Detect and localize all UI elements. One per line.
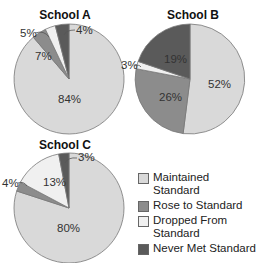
label-b-52: 52% (208, 78, 231, 90)
swatch-rose (138, 201, 149, 212)
legend: Maintained Standard Rose to Standard Dro… (138, 171, 256, 257)
pie-school-a (14, 24, 124, 134)
label-c-4: 4% (2, 177, 19, 189)
legend-label: Dropped From Standard (153, 214, 233, 240)
legend-label: Rose to Standard (153, 199, 243, 212)
label-a-4: 4% (76, 24, 93, 36)
legend-item-never: Never Met Standard (138, 242, 256, 255)
label-c-13: 13% (43, 176, 66, 188)
pie-school-c (14, 153, 124, 263)
label-c-80: 80% (57, 222, 80, 234)
legend-item-rose: Rose to Standard (138, 199, 256, 212)
label-a-84: 84% (58, 93, 81, 105)
label-b-26: 26% (159, 91, 182, 103)
legend-label: Never Met Standard (153, 242, 256, 255)
swatch-dropped (138, 216, 149, 227)
legend-label: Maintained Standard (153, 171, 256, 197)
label-a-7: 7% (35, 50, 52, 62)
swatch-never (138, 244, 149, 255)
legend-item-maintained: Maintained Standard (138, 171, 256, 197)
label-b-19: 19% (164, 53, 187, 65)
label-a-5: 5% (20, 27, 37, 39)
swatch-maintained (138, 173, 149, 184)
label-b-3: 3% (121, 59, 138, 71)
label-c-3: 3% (78, 151, 95, 163)
legend-item-dropped: Dropped From Standard (138, 214, 256, 240)
